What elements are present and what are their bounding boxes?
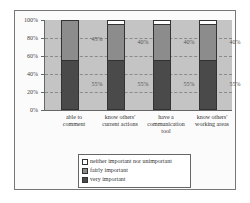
stacked-bar: [107, 20, 125, 110]
legend-item-very: very important: [82, 175, 187, 184]
legend-swatch-icon: [82, 159, 88, 165]
y-tick-label: 100%: [24, 17, 38, 23]
y-tick: [41, 56, 45, 57]
stacked-bar: [153, 20, 171, 110]
legend-swatch-icon: [82, 168, 88, 174]
y-tick: [41, 38, 45, 39]
y-tick-label: 20%: [27, 89, 38, 95]
data-label-very-important: 55%: [129, 81, 157, 87]
bar-segment-fairly-important: [107, 25, 125, 61]
y-tick: [41, 74, 45, 75]
data-label-fairly-important: 40%: [221, 39, 249, 45]
data-label-very-important: 55%: [221, 81, 249, 87]
y-tick: [41, 110, 45, 111]
x-category-label: able tocomment: [51, 114, 97, 128]
x-category-label: have acommunicationtool: [143, 114, 189, 135]
legend-label: fairly important: [90, 166, 128, 175]
data-label-fairly-important: 40%: [175, 39, 203, 45]
stacked-bar: [199, 20, 217, 110]
legend-label: very important: [90, 175, 126, 184]
legend-item-neither: neither important nor unimportant: [82, 157, 187, 166]
y-tick: [41, 92, 45, 93]
data-label-very-important: 55%: [83, 81, 111, 87]
data-label-very-important: 55%: [175, 81, 203, 87]
y-tick-label: 80%: [27, 35, 38, 41]
y-tick-label: 40%: [27, 71, 38, 77]
x-category-label: know others'working areas: [189, 114, 235, 128]
data-label-fairly-important: 40%: [129, 39, 157, 45]
y-axis: [44, 20, 45, 111]
legend-label: neither important nor unimportant: [90, 157, 172, 166]
data-label-fairly-important: 45%: [83, 36, 111, 42]
bar-segment-very-important: [61, 61, 79, 111]
legend-item-fairly: fairly important: [82, 166, 187, 175]
y-tick: [41, 20, 45, 21]
bar-segment-fairly-important: [61, 20, 79, 61]
legend-swatch-icon: [82, 177, 88, 183]
y-tick-label: 0%: [30, 107, 38, 113]
legend: neither important nor unimportant fairly…: [78, 154, 191, 188]
stacked-bar: [61, 20, 79, 110]
x-category-label: know others'current actions: [97, 114, 143, 128]
x-axis: [44, 110, 232, 111]
y-tick-label: 60%: [27, 53, 38, 59]
